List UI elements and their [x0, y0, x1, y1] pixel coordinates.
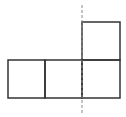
square-1 [8, 60, 45, 98]
square-net [8, 22, 120, 98]
square-3 [82, 60, 120, 98]
square-2 [45, 60, 82, 98]
diagram-canvas [0, 0, 126, 117]
square-4 [82, 22, 120, 60]
